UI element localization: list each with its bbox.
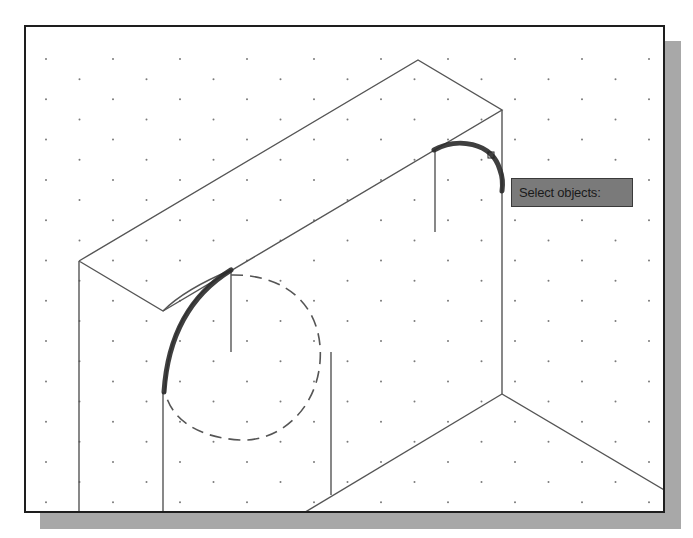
tooltip-label: Select objects: bbox=[519, 185, 601, 200]
selected-arc-front[interactable] bbox=[164, 270, 231, 392]
front-arc-outline-2 bbox=[165, 270, 231, 392]
drawing-viewport[interactable]: Select objects: bbox=[24, 25, 665, 513]
drawing-canvas[interactable] bbox=[24, 25, 665, 513]
top-face-outline bbox=[79, 60, 502, 311]
isometric-block bbox=[79, 60, 665, 513]
selected-arc-back[interactable] bbox=[434, 143, 503, 191]
floor-line-left bbox=[302, 394, 502, 513]
floor-line-right bbox=[502, 394, 665, 491]
select-objects-tooltip: Select objects: bbox=[511, 178, 633, 207]
isometric-dot-grid bbox=[45, 58, 650, 503]
hidden-circle-dashed bbox=[165, 275, 320, 440]
